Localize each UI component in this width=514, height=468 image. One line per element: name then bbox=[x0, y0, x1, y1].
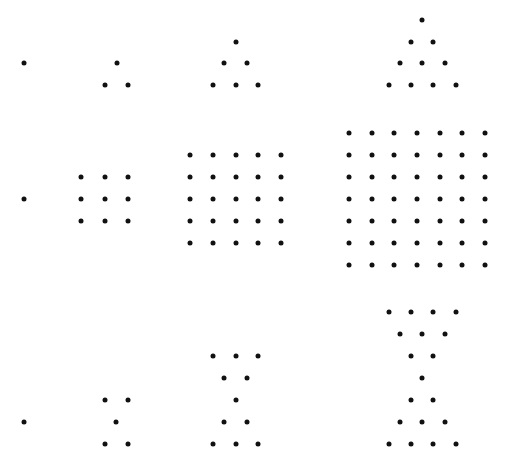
dot bbox=[454, 310, 459, 315]
dot bbox=[431, 442, 436, 447]
dot bbox=[387, 310, 392, 315]
dot bbox=[387, 442, 392, 447]
dot bbox=[409, 310, 414, 315]
dot bbox=[398, 420, 403, 425]
dot bbox=[420, 420, 425, 425]
dot-pattern-diagram bbox=[0, 0, 514, 468]
hourglass-figure-19 bbox=[0, 0, 514, 468]
dot bbox=[409, 398, 414, 403]
dot bbox=[420, 332, 425, 337]
dot bbox=[398, 332, 403, 337]
dot bbox=[443, 420, 448, 425]
dot bbox=[431, 354, 436, 359]
dot bbox=[431, 310, 436, 315]
dot bbox=[443, 332, 448, 337]
dot bbox=[431, 398, 436, 403]
dot bbox=[454, 442, 459, 447]
dot bbox=[409, 442, 414, 447]
dot bbox=[420, 376, 425, 381]
dot bbox=[409, 354, 414, 359]
